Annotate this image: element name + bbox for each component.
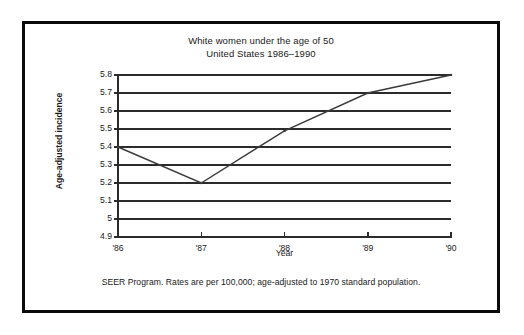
- y-axis-tick-label: 5.2: [70, 177, 112, 187]
- y-axis-title: Age-adjusted incidence: [54, 76, 64, 206]
- y-axis-tick-label: 4.9: [70, 231, 112, 241]
- data-point-marker: [283, 130, 285, 132]
- figure-border: White women under the age of 50 United S…: [22, 21, 500, 313]
- y-axis-tick-label: 5.1: [70, 195, 112, 205]
- y-axis-tick-label: 5: [70, 213, 112, 223]
- x-axis-title: Year: [118, 248, 451, 258]
- plot-area: 5.85.75.65.55.45.35.25.154.9 '86'87'88'8…: [25, 24, 497, 310]
- data-point-marker: [200, 182, 202, 184]
- gridlines: [118, 75, 451, 237]
- y-axis-tick-label: 5.5: [70, 123, 112, 133]
- figure-inner: White women under the age of 50 United S…: [25, 24, 497, 310]
- data-point-marker: [450, 74, 452, 76]
- y-axis-tick-label: 5.6: [70, 105, 112, 115]
- y-axis-tick-label: 5.7: [70, 87, 112, 97]
- chart-footnote: SEER Program. Rates are per 100,000; age…: [25, 277, 497, 287]
- y-axis-tick-label: 5.8: [70, 69, 112, 79]
- y-axis-tick-label: 5.3: [70, 159, 112, 169]
- chart-canvas: [25, 24, 503, 316]
- y-axis-tick-label: 5.4: [70, 141, 112, 151]
- data-point-marker: [367, 92, 369, 94]
- data-point-marker: [117, 146, 119, 148]
